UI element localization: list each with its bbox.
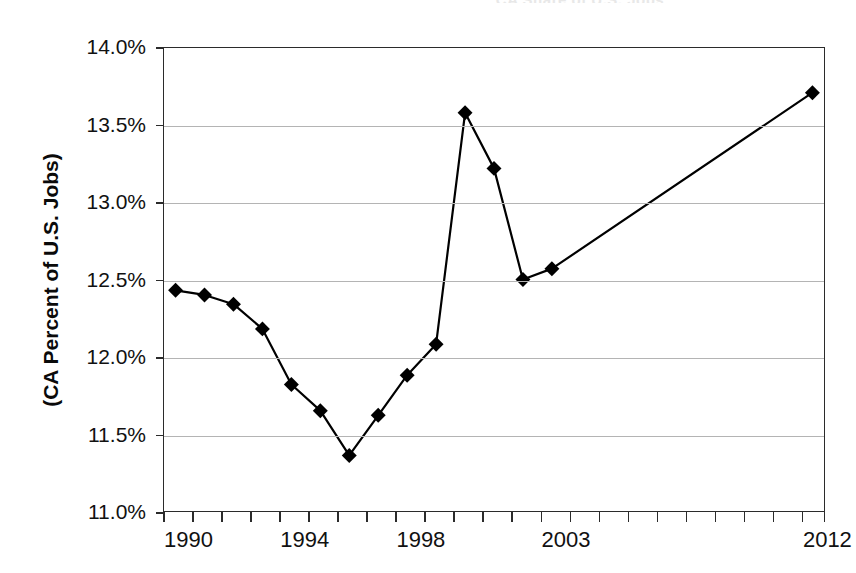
y-axis-tick-label: 13.0% <box>50 190 146 214</box>
x-axis-tick-mark <box>395 512 397 522</box>
x-axis-tick-mark <box>279 512 281 522</box>
y-axis-tick-label: 11.5% <box>50 423 146 447</box>
x-axis-tick-label: 2003 <box>542 527 591 553</box>
x-axis-tick-mark <box>366 512 368 522</box>
chart-figure: CA Share of U.S. Jobs (CA Percent of U.S… <box>0 0 856 573</box>
x-axis-tick-mark <box>424 512 426 522</box>
x-axis-tick-mark <box>250 512 252 522</box>
gridline <box>164 126 824 127</box>
x-axis-tick-mark <box>192 512 194 522</box>
x-axis-tick-mark <box>308 512 310 522</box>
x-axis-tick-label: 2012 <box>803 527 852 553</box>
data-point-marker <box>458 105 473 120</box>
x-axis-tick-label: 1994 <box>280 527 329 553</box>
x-axis-tick-label: 1998 <box>396 527 445 553</box>
x-axis-tick-mark <box>163 512 165 522</box>
x-axis-tick-mark <box>824 512 826 522</box>
x-axis-tick-label: 1990 <box>164 527 213 553</box>
y-axis-tick-labels: 14.0%13.5%13.0%12.5%12.0%11.5%11.0% <box>50 47 146 512</box>
data-point-marker <box>805 85 820 100</box>
x-axis-tick-labels: 19901994199820032012 <box>0 527 856 559</box>
x-axis-tick-mark <box>337 512 339 522</box>
gridline <box>164 436 824 437</box>
x-axis-tick-mark <box>657 512 659 522</box>
x-axis-tick-mark <box>686 512 688 522</box>
x-axis-tick-mark <box>570 512 572 522</box>
y-axis-tick-label: 14.0% <box>50 35 146 59</box>
data-point-marker <box>342 448 357 463</box>
x-axis-tick-mark <box>511 512 513 522</box>
y-axis-tick-label: 11.0% <box>50 500 146 524</box>
x-axis-tick-mark <box>221 512 223 522</box>
data-point-marker <box>544 261 559 276</box>
data-point-marker <box>371 408 386 423</box>
x-axis-tick-mark <box>541 512 543 522</box>
x-axis-tick-mark <box>482 512 484 522</box>
y-axis-tick-label: 13.5% <box>50 113 146 137</box>
data-point-marker <box>168 283 183 298</box>
gridline <box>164 203 824 204</box>
gridline <box>164 281 824 282</box>
x-axis-tick-mark <box>802 512 804 522</box>
chart-title-cropped: CA Share of U.S. Jobs <box>430 0 730 3</box>
data-point-marker <box>515 272 530 287</box>
gridline <box>164 358 824 359</box>
y-axis-tick-label: 12.0% <box>50 345 146 369</box>
x-axis-tick-mark <box>453 512 455 522</box>
x-axis-tick-mark <box>715 512 717 522</box>
x-axis-tick-marks <box>163 512 825 524</box>
y-axis-tick-label: 12.5% <box>50 268 146 292</box>
x-axis-tick-mark <box>599 512 601 522</box>
x-axis-tick-mark <box>773 512 775 522</box>
series-line <box>176 93 813 456</box>
data-point-marker <box>487 161 502 176</box>
x-axis-tick-mark <box>628 512 630 522</box>
plot-area <box>163 47 825 512</box>
x-axis-tick-mark <box>744 512 746 522</box>
data-point-marker <box>197 287 212 302</box>
data-series-line <box>164 48 824 511</box>
